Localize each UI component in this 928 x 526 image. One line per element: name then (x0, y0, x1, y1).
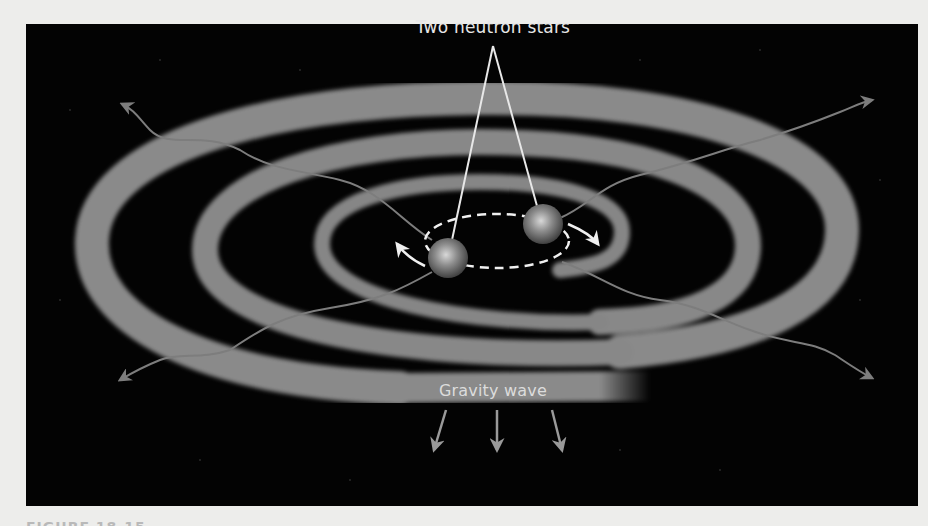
neutron-stars-label: Two neutron stars (416, 17, 570, 37)
gravity-wave-label: Gravity wave (439, 381, 547, 400)
figure-caption: FIGURE 18-15 (26, 514, 146, 526)
neutron-star-1 (428, 238, 468, 278)
neutron-star-gravity-wave-diagram (0, 0, 928, 526)
neutron-star-2 (523, 204, 563, 244)
